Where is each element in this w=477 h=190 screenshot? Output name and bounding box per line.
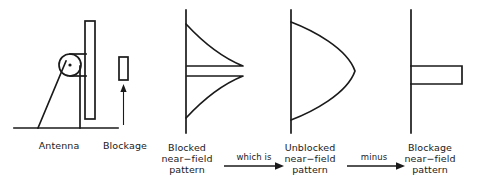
- unblocked-pattern-label-line-2: near−field: [275, 153, 345, 164]
- unblocked-pattern-curve: [291, 22, 355, 120]
- blockage-pointer-arrowhead: [120, 84, 126, 92]
- reflector-panel: [85, 21, 95, 119]
- feed-center-dot: [68, 63, 71, 66]
- blocked-pattern-label-line-1: Blocked: [156, 142, 218, 153]
- figure-root: Antenna Blockage Blocked near−field patt…: [0, 0, 477, 190]
- blocked-pattern-label: Blocked near−field pattern: [156, 142, 218, 175]
- unblocked-pattern-label-line-3: pattern: [275, 164, 345, 175]
- blockage-rectangle: [119, 57, 128, 80]
- blockage-pattern-label-line-3: pattern: [396, 164, 464, 175]
- blocked-pattern-label-line-3: pattern: [156, 164, 218, 175]
- blocked-pattern-label-line-2: near−field: [156, 153, 218, 164]
- blocked-pattern-lower-lobe: [186, 76, 243, 118]
- connector-minus-label: minus: [348, 152, 400, 164]
- blockage-pattern-rect-lobe: [411, 66, 462, 84]
- blockage-pattern-label-line-2: near−field: [396, 153, 464, 164]
- blocked-pattern-upper-lobe: [186, 24, 243, 66]
- unblocked-pattern-label: Unblocked near−field pattern: [275, 142, 345, 175]
- antenna-label: Antenna: [26, 140, 92, 152]
- unblocked-pattern-group: [291, 10, 355, 133]
- unblocked-pattern-label-line-1: Unblocked: [275, 142, 345, 153]
- blockage-pattern-label-line-1: Blockage: [396, 142, 464, 153]
- blockage-pattern-label: Blockage near−field pattern: [396, 142, 464, 175]
- antenna-diagram-group: [14, 21, 128, 128]
- blockage-label: Blockage: [92, 140, 158, 152]
- blocked-pattern-group: [186, 10, 243, 133]
- blockage-pattern-group: [411, 10, 462, 133]
